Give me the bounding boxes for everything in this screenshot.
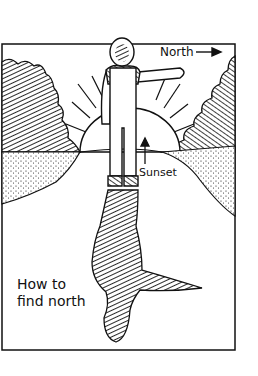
north-illustration [0, 0, 258, 376]
caption-line-1: How to [17, 276, 107, 293]
caption-line-2: find north [17, 293, 107, 310]
caption: How to find north [17, 276, 107, 310]
sunset-label: Sunset [139, 166, 177, 179]
north-label: North [160, 45, 194, 59]
